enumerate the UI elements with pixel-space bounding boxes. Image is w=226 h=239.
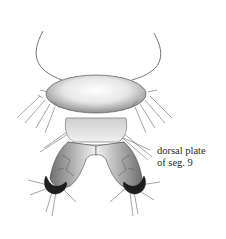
label-line-2: of seg. 9	[157, 157, 206, 169]
larva-illustration	[0, 0, 226, 239]
head-plate	[46, 75, 146, 113]
dorsal-plate-seg-9	[65, 118, 126, 142]
label-line-1: dorsal plate	[157, 145, 206, 157]
left-proleg	[50, 142, 96, 188]
antenna-filaments	[36, 31, 161, 80]
dorsal-plate-label: dorsal plate of seg. 9	[157, 145, 206, 169]
